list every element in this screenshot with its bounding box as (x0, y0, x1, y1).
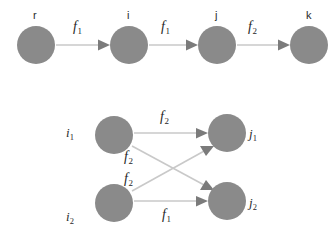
node-label-j: j (215, 10, 217, 21)
node-r[interactable] (17, 26, 55, 64)
node-label-r: r (33, 10, 37, 21)
edge-label-i2-j2: f1 (162, 208, 170, 222)
bottom-graph-nodes (95, 114, 246, 222)
diagram-canvas: r i j k f1 f1 f2 i1 i2 j1 j2 f2 f2 f2 f1 (0, 0, 335, 237)
edge-label-i1-j2: f2 (124, 150, 132, 164)
edge-label-i2-j1: f2 (124, 172, 132, 186)
edge-label-r-i-sub: 1 (77, 26, 82, 36)
node-k[interactable] (290, 26, 328, 64)
arrowhead-i1-to-j1 (196, 128, 208, 139)
edge-i2-to-j1 (132, 150, 206, 191)
arrowhead-i1-to-j2 (200, 180, 214, 190)
edge-label-i1-j1: f2 (160, 110, 168, 124)
arrowhead-i-to-j (186, 40, 198, 51)
node-label-i2-sub: 2 (70, 216, 74, 226)
node-j1[interactable] (208, 114, 246, 152)
bottom-graph-edges (132, 128, 214, 207)
node-j[interactable] (198, 26, 236, 64)
edge-i1-to-j2 (132, 146, 206, 186)
edge-label-j-k: f2 (248, 20, 256, 34)
node-i[interactable] (110, 26, 148, 64)
edge-label-i2-j1-sub: 2 (128, 178, 133, 188)
edge-label-r-i: f1 (73, 20, 81, 34)
node-label-i: i (127, 10, 129, 21)
node-j2[interactable] (208, 182, 246, 220)
top-graph-edges (56, 40, 290, 51)
node-label-j2: j2 (249, 196, 257, 209)
edge-label-i2-j2-sub: 1 (166, 214, 171, 224)
edge-label-i-j-sub: 1 (165, 26, 170, 36)
node-label-j2-sub: 2 (253, 202, 257, 212)
arrowhead-i2-to-j1 (200, 146, 214, 156)
node-label-k: k (306, 10, 312, 21)
arrowhead-j-to-k (278, 40, 290, 51)
node-label-i1-sub: 1 (70, 132, 74, 142)
node-i2[interactable] (95, 184, 133, 222)
node-label-j1-sub: 1 (253, 133, 257, 143)
node-label-i1: i1 (66, 126, 74, 139)
edge-label-j-k-sub: 2 (252, 26, 257, 36)
edge-label-i-j: f1 (161, 20, 169, 34)
arrowhead-r-to-i (98, 40, 110, 51)
edge-label-i1-j1-sub: 2 (164, 116, 169, 126)
node-label-i2: i2 (66, 210, 74, 223)
arrowhead-i2-to-j2 (196, 196, 208, 207)
node-label-j1: j1 (249, 127, 257, 140)
edge-label-i1-j2-sub: 2 (128, 156, 133, 166)
